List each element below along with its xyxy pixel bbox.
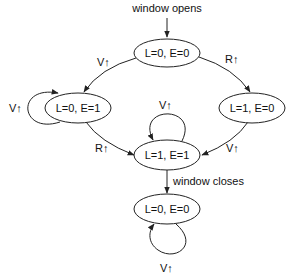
edge-label: R↑ (225, 53, 238, 65)
edge-le10-to-le11: V↑ (202, 122, 248, 155)
node-le01: L=0, E=1 (45, 93, 111, 123)
edge-label: V↑ (159, 99, 172, 111)
node-label: L=0, E=1 (56, 102, 101, 114)
node-le10: L=1, E=0 (219, 93, 285, 123)
state-diagram: window opens V↑ R↑ V↑ V↑ R↑ V↑ window cl… (0, 0, 296, 279)
node-label: L=0, E=0 (145, 203, 190, 215)
edge-start-to-le01: V↑ (84, 56, 136, 92)
node-label: L=1, E=0 (230, 102, 275, 114)
edge-window-closes: window closes (167, 170, 244, 193)
node-label: L=1, E=1 (145, 149, 190, 161)
edge-start-to-le10: R↑ (199, 53, 250, 92)
edge-label: V↑ (97, 56, 110, 68)
edge-label: V↑ (9, 102, 22, 114)
node-end: L=0, E=0 (134, 194, 200, 224)
edge-window-opens: window opens (131, 2, 202, 37)
edge-label: V↑ (226, 142, 239, 154)
edge-le01-to-le11: R↑ (86, 122, 134, 155)
edge-label: window closes (172, 175, 244, 187)
node-le11: L=1, E=1 (134, 140, 200, 170)
edge-le11-self-loop: V↑ (150, 99, 185, 141)
edge-label: window opens (131, 2, 202, 14)
node-start: L=0, E=0 (134, 39, 200, 67)
edge-end-self-loop: V↑ (150, 224, 186, 274)
node-label: L=0, E=0 (145, 47, 190, 59)
edge-label: R↑ (95, 142, 108, 154)
edge-label: V↑ (160, 262, 173, 274)
